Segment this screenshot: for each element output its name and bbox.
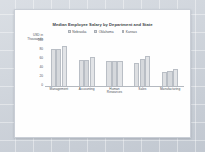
category-label-line: Resources [103, 91, 127, 95]
bar[interactable] [140, 59, 145, 86]
legend-item-kansas[interactable]: Kansas [122, 30, 137, 34]
x-axis-categories: ManagementAccountingHumanResourcesSalesM… [45, 88, 184, 96]
bar[interactable] [106, 61, 111, 85]
bar[interactable] [117, 61, 122, 85]
bar[interactable] [84, 60, 89, 86]
y-tick-label: 80 [39, 48, 43, 51]
bar[interactable] [112, 61, 117, 85]
screen: Median Employee Salary by Department and… [0, 0, 205, 152]
bar-group [158, 41, 182, 86]
legend-label: Nebraska [72, 30, 86, 34]
y-tick-label: 40 [39, 66, 43, 69]
category-label: Accounting [75, 88, 99, 96]
bar[interactable] [79, 60, 84, 85]
category-label-line: Manufacturing [158, 88, 182, 92]
bar[interactable] [134, 63, 139, 85]
bar[interactable] [51, 49, 56, 85]
bar[interactable] [162, 72, 167, 85]
bar[interactable] [145, 56, 150, 86]
bar-group [75, 41, 99, 86]
legend-label: Kansas [126, 30, 137, 34]
chart-title: Median Employee Salary by Department and… [15, 22, 190, 27]
bar[interactable] [167, 71, 172, 86]
bar-group [47, 41, 71, 86]
bar[interactable] [173, 69, 178, 86]
y-tick-label: 0 [41, 84, 43, 87]
bar[interactable] [90, 57, 95, 85]
bar[interactable] [56, 49, 61, 85]
plot-area [45, 41, 184, 86]
y-tick-label: 20 [39, 75, 43, 78]
x-axis-line [45, 86, 184, 87]
bar-group [130, 41, 154, 86]
category-label-line: Accounting [75, 88, 99, 92]
category-label: Management [47, 88, 71, 96]
category-label-line: Management [47, 88, 71, 92]
legend-swatch-icon [94, 30, 97, 33]
legend-swatch-icon [68, 30, 71, 33]
category-label-line: Sales [130, 88, 154, 92]
category-label: Sales [130, 88, 154, 96]
bar-group [103, 41, 127, 86]
chart-figure: Median Employee Salary by Department and… [15, 10, 190, 137]
y-axis-ticks: 100806040200 [19, 41, 43, 86]
legend-swatch-icon [122, 30, 125, 33]
category-label: HumanResources [103, 88, 127, 96]
y-tick-label: 100 [38, 39, 43, 42]
y-tick-label: 60 [39, 57, 43, 60]
legend-label: Oklahoma [99, 30, 114, 34]
bar-groups [45, 41, 184, 86]
legend-item-oklahoma[interactable]: Oklahoma [94, 30, 113, 34]
legend-item-nebraska[interactable]: Nebraska [68, 30, 86, 34]
bar[interactable] [62, 46, 67, 85]
chart-card: Median Employee Salary by Department and… [14, 9, 191, 138]
category-label: Manufacturing [158, 88, 182, 96]
